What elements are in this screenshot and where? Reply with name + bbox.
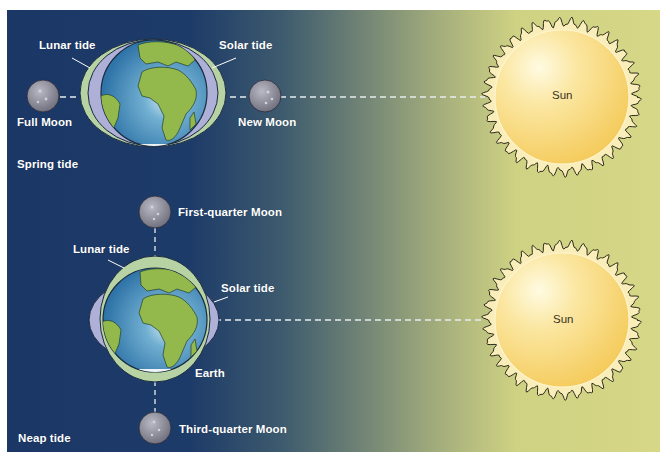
first-quarter-moon-label: First-quarter Moon [178,206,282,218]
neap-solar-tide-label: Solar tide [221,282,274,294]
new-moon-label: New Moon [238,116,296,128]
solar-tide-leader [214,297,228,302]
tides-diagram [0,0,666,463]
full-moon-icon [27,80,59,112]
new-moon-icon [249,80,281,112]
neap-sun-label: Sun [553,313,573,325]
third-quarter-moon-label: Third-quarter Moon [179,423,287,435]
neap-tide-section-label: Neap tide [18,432,71,444]
first-quarter-moon-icon [139,196,171,228]
lunar-tide-leader [108,260,124,268]
earth-label: Earth [195,367,225,379]
spring-tide-group [27,17,641,177]
neap-lunar-tide-label: Lunar tide [73,243,130,255]
spring-solar-tide-label: Solar tide [219,39,272,51]
solar-tide-leader [212,58,236,68]
third-quarter-moon-icon [139,412,171,444]
lunar-tide-leader [72,58,90,68]
spring-lunar-tide-label: Lunar tide [39,39,96,51]
full-moon-label: Full Moon [17,116,72,128]
spring-tide-section-label: Spring tide [17,158,78,170]
spring-sun-label: Sun [552,89,572,101]
